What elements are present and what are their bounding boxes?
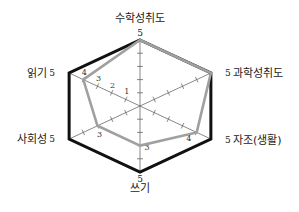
axis-label: 자조(생활) <box>233 133 282 147</box>
tick-label: 2 <box>110 81 115 90</box>
tick-mark <box>125 110 128 115</box>
tick-mark <box>195 77 198 82</box>
max-value-label: 5 <box>137 28 143 38</box>
tick-mark <box>167 90 170 95</box>
max-value-label: 5 <box>49 68 55 78</box>
tick-mark <box>110 116 113 121</box>
radar-chart: 수학성취도5과학성취도5자조(생활)5쓰기5사회성5읽기51234433 <box>0 0 299 212</box>
tick-mark <box>153 110 156 115</box>
tick-mark <box>110 90 113 95</box>
tick-label: 1 <box>124 87 129 96</box>
max-value-label: 5 <box>225 68 231 78</box>
tick-mark <box>82 130 85 135</box>
tick-mark <box>153 97 156 102</box>
axis-label: 읽기 <box>27 67 47 80</box>
tick-label: 4 <box>82 68 87 77</box>
axis-label: 수학성취도 <box>115 12 165 25</box>
max-value-label: 5 <box>137 174 143 184</box>
max-value-label: 5 <box>225 135 231 145</box>
axis-label: 과학성취도 <box>233 67 283 80</box>
max-value-label: 5 <box>49 134 55 144</box>
tick-mark <box>181 123 184 128</box>
axis-label: 사회성 <box>17 133 47 146</box>
tick-mark <box>125 97 128 102</box>
point-value-label: 3 <box>144 143 149 152</box>
point-value-label: 3 <box>97 130 102 139</box>
tick-label: 3 <box>96 74 101 83</box>
tick-mark <box>96 83 99 88</box>
point-value-label: 4 <box>186 134 191 143</box>
tick-mark <box>181 83 184 88</box>
tick-mark <box>167 116 170 121</box>
